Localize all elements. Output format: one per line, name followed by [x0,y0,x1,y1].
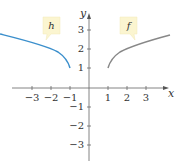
h-label: h [48,20,54,31]
y-axis-arrow-icon [87,13,91,19]
y-axis-label: y [79,7,87,20]
x-tick-label: −2 [44,92,59,103]
f-label-callout: f [120,17,137,40]
h-label-callout: h [43,17,60,40]
x-axis-label: x [168,87,175,100]
function-graph: −3 −2 −1 1 2 3 3 2 1 −1 −2 −3 x y h f [0,0,184,163]
y-tick-label: −1 [69,101,84,112]
x-tick-label: 3 [143,92,149,103]
y-tick-label: 3 [78,24,84,35]
h-curve [0,34,70,68]
x-tick-label: 2 [124,92,130,103]
y-tick-label: 1 [78,62,84,73]
y-tick-label: −3 [69,139,84,150]
f-curve [108,35,170,68]
x-tick-label: 1 [105,92,111,103]
y-tick-label: 2 [78,43,84,54]
y-tick-label: −2 [69,120,84,131]
x-tick-label: −3 [25,92,40,103]
